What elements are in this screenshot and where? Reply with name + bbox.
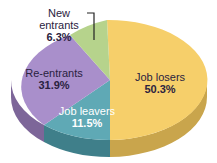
label-job-leavers: Job leavers 11.5%: [52, 105, 122, 129]
label-new-entrants-value: 6.3%: [28, 31, 90, 43]
label-job-leavers-value: 11.5%: [52, 117, 122, 129]
label-job-losers-name: Job losers: [135, 71, 185, 83]
label-job-losers: Job losers 50.3%: [125, 71, 195, 95]
label-re-entrants: Re-entrants 31.9%: [24, 67, 84, 91]
label-job-leavers-name: Job leavers: [59, 105, 115, 117]
label-re-entrants-name: Re-entrants: [25, 67, 82, 79]
label-new-entrants: New entrants 6.3%: [28, 7, 90, 43]
label-re-entrants-value: 31.9%: [24, 79, 84, 91]
label-new-entrants-name: New entrants: [39, 7, 79, 31]
label-job-losers-value: 50.3%: [125, 83, 195, 95]
